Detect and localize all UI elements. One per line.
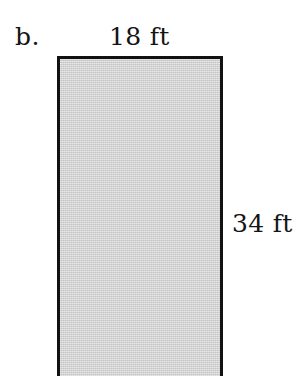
part-label: b. xyxy=(15,23,40,51)
dimension-label-width: 18 ft xyxy=(109,23,170,50)
dimension-label-height: 34 ft xyxy=(232,210,293,237)
fill-texture xyxy=(60,59,220,376)
rectangle-shape xyxy=(57,56,223,376)
